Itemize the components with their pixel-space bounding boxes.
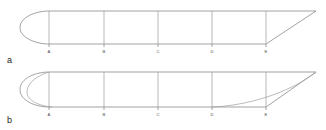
panel-a-station-label-c: C — [156, 49, 159, 54]
panel-a-bow-ellipse — [20, 11, 49, 44]
panel-b-station-label-c: C — [156, 112, 159, 117]
hull-profile-diagram: A B C D E a — [0, 0, 326, 130]
panel-b-station-label-d: D — [210, 112, 213, 117]
figure-container: A B C D E a — [0, 0, 326, 130]
panel-a-station-label-d: D — [210, 49, 213, 54]
panel-b-bow-curve-inner — [27, 72, 52, 107]
panel-a-stern-taper — [266, 11, 316, 44]
panel-b-station-label-b: B — [103, 112, 106, 117]
panel-b-station-label-a: A — [48, 112, 51, 117]
panel-a-station-label-b: B — [103, 49, 106, 54]
panel-b-stern-curve — [212, 73, 316, 108]
panel-a-figure-label: a — [7, 55, 12, 65]
panel-b: A B C D E b — [7, 72, 316, 125]
panel-b-figure-label: b — [7, 115, 12, 125]
panel-a: A B C D E a — [7, 11, 316, 65]
panel-a-station-label-a: A — [48, 49, 51, 54]
panel-b-station-label-e: E — [265, 112, 268, 117]
panel-a-station-label-e: E — [265, 49, 268, 54]
panel-b-bow-ellipse-outer — [20, 72, 49, 107]
